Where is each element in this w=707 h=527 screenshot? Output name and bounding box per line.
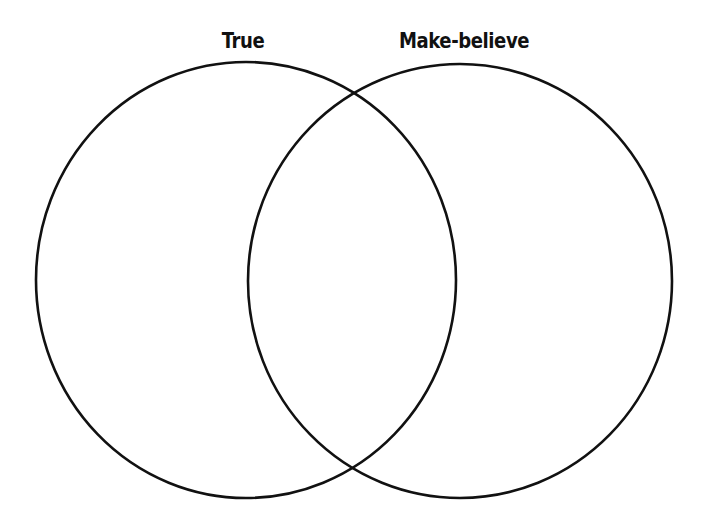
- label-make-believe: Make-believe: [399, 31, 529, 52]
- venn-circles: [0, 0, 707, 527]
- circle-make-believe: [248, 64, 672, 498]
- circle-true: [36, 62, 456, 498]
- label-true: True: [222, 31, 265, 52]
- venn-diagram: True Make-believe: [0, 0, 707, 527]
